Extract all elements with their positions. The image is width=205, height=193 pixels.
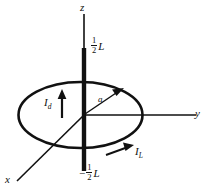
fraction-denominator: 2 [86, 172, 92, 182]
length-symbol: L [98, 40, 104, 52]
line-current-label: IL [135, 146, 143, 160]
y-axis-label: y [195, 108, 200, 119]
current-subscript: d [48, 102, 52, 111]
half-fraction-top: 1 2 [91, 36, 97, 54]
fraction-numerator: 1 [86, 163, 92, 172]
length-symbol: L [93, 167, 99, 179]
displacement-current-arrow [58, 89, 67, 118]
radius-arrow [85, 88, 124, 114]
half-fraction-bottom: 1 2 [86, 163, 92, 181]
fraction-denominator: 2 [91, 45, 97, 55]
radius-label: a [98, 95, 103, 104]
half-length-bottom-label: − 1 2 L [79, 163, 100, 181]
current-subscript: L [139, 151, 143, 160]
minus-sign: − [79, 167, 85, 179]
displacement-current-label: Id [44, 97, 51, 111]
fraction-numerator: 1 [91, 36, 97, 45]
x-axis-label: x [5, 174, 10, 185]
half-length-top-label: 1 2 L [90, 36, 104, 54]
z-axis-label: z [80, 2, 84, 13]
